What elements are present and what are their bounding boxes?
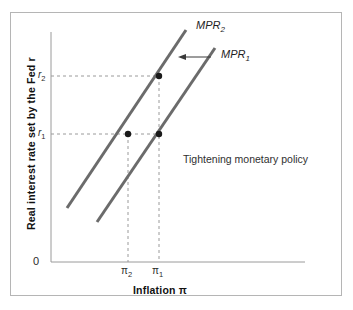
xtick-label-pi2: π2: [121, 266, 132, 279]
curve-label-mpr2: MPR2: [196, 20, 225, 34]
xtick-label-pi1: π1: [152, 266, 163, 279]
point-pi1-r2: [156, 73, 162, 79]
origin-label: 0: [33, 256, 39, 267]
ytick-label-r2: r2: [38, 70, 46, 83]
y-axis-title: Real interest rate set by the Fed r: [26, 57, 37, 230]
curve-label-mpr1: MPR1: [221, 49, 250, 63]
shift-arrow-head: [178, 54, 186, 60]
annotation-tightening-monetary-policy: Tightening monetary policy: [183, 154, 308, 165]
point-pi1-r1: [156, 131, 162, 137]
figure-canvas: MPR2 MPR1 r2 r1 π2 π1 0 Real interest ra…: [0, 0, 353, 310]
ytick-label-r1: r1: [38, 128, 46, 141]
x-axis-title: Inflation π: [133, 285, 187, 296]
point-pi2-r1: [125, 131, 131, 137]
